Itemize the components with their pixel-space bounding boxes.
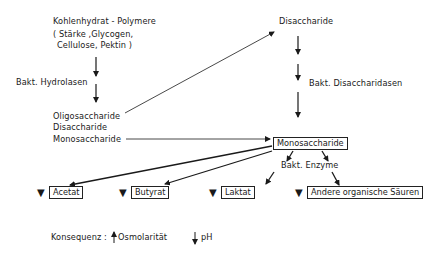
product-acetat: Acetat bbox=[49, 186, 83, 199]
decrease-marker-laktat: ▼ bbox=[209, 188, 217, 198]
arrow-to-disaccharide bbox=[125, 32, 274, 113]
arrow-to-acetat bbox=[70, 146, 272, 185]
step-disaccharidasen-label: Bakt. Disaccharidasen bbox=[309, 78, 402, 89]
arrow-to-andere bbox=[332, 172, 339, 185]
product-butyrat: Butyrat bbox=[131, 186, 169, 199]
polymer-examples-1: ( Stärke ,Glycogen, bbox=[53, 29, 133, 40]
enzyme-label: Bakt. Enzyme bbox=[281, 160, 339, 171]
monosaccharide-box: Monosaccharide bbox=[273, 137, 348, 150]
decrease-marker-andere: ▼ bbox=[295, 188, 303, 198]
oligosaccharide-label: Oligosaccharide bbox=[53, 111, 120, 122]
product-laktat: Laktat bbox=[221, 186, 255, 199]
decrease-marker-acetat: ▼ bbox=[37, 188, 45, 198]
consequence-osmolarity: Osmolarität bbox=[118, 232, 167, 243]
decrease-marker-butyrat: ▼ bbox=[119, 188, 127, 198]
product-andere-saeuren: Andere organische Säuren bbox=[307, 186, 423, 199]
consequence-ph: pH bbox=[201, 232, 213, 243]
consequence-label: Konsequenz : bbox=[51, 232, 107, 243]
arrow-to-laktat bbox=[266, 172, 274, 184]
disaccharide-label: Disaccharide bbox=[53, 122, 107, 133]
polymer-examples-2: Cellulose, Pektin ) bbox=[57, 40, 132, 51]
polymer-title: Kohlenhydrat - Polymere bbox=[53, 16, 156, 27]
monosaccharide-label: Monosaccharide bbox=[53, 134, 121, 145]
step-hydrolasen-label: Bakt. Hydrolasen bbox=[16, 77, 88, 88]
disaccharide-node: Disaccharide bbox=[279, 16, 333, 27]
